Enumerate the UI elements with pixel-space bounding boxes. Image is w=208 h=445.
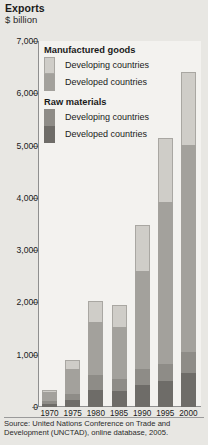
bar-1995 bbox=[158, 138, 173, 407]
legend-group-title-manufactured: Manufactured goods bbox=[44, 44, 176, 56]
legend-swatch-icon bbox=[44, 126, 55, 143]
y-axis-label: 6,000 bbox=[4, 89, 38, 97]
bar-segment bbox=[158, 202, 173, 364]
legend-label: Developing countries bbox=[65, 60, 149, 71]
bar-segment bbox=[65, 360, 80, 369]
y-axis-label: 4,000 bbox=[4, 194, 38, 202]
bar-segment bbox=[158, 138, 173, 202]
bar-segment bbox=[135, 271, 150, 369]
y-axis-label: 1,000 bbox=[4, 351, 38, 359]
bar-segment bbox=[181, 72, 196, 145]
bar-1990 bbox=[135, 225, 150, 407]
bar-1985 bbox=[112, 305, 127, 407]
legend-item-raw-developing: Developing countries bbox=[44, 109, 176, 126]
bar-segment bbox=[158, 364, 173, 381]
legend-swatch-icon bbox=[44, 109, 55, 126]
legend-item-raw-developed: Developed countries bbox=[44, 126, 176, 143]
bar-segment bbox=[181, 145, 196, 352]
bar-segment bbox=[88, 390, 103, 407]
bar-segment bbox=[65, 369, 80, 394]
legend-swatch-icon bbox=[44, 74, 55, 91]
source-divider bbox=[4, 417, 204, 418]
legend-swatch-icon bbox=[44, 57, 55, 74]
chart-root: Exports $ billion 7,0006,0005,0004,0003,… bbox=[0, 0, 208, 445]
bar-segment bbox=[42, 392, 57, 401]
source-note: Source: United Nations Conference on Tra… bbox=[4, 419, 206, 437]
bar-segment bbox=[158, 381, 173, 407]
bar-segment bbox=[88, 301, 103, 322]
legend-item-manufactured-developing: Developing countries bbox=[44, 57, 176, 74]
bar-segment bbox=[112, 327, 127, 379]
legend-label: Developed countries bbox=[65, 77, 147, 88]
y-axis-label: 3,000 bbox=[4, 246, 38, 254]
bar-1970 bbox=[42, 390, 57, 407]
y-axis-label: 7,000 bbox=[4, 37, 38, 45]
bar-segment bbox=[88, 322, 103, 374]
legend-label: Developed countries bbox=[65, 129, 147, 140]
bar-segment bbox=[135, 369, 150, 385]
y-axis-label: 5,000 bbox=[4, 142, 38, 150]
legend-group-title-raw-materials: Raw materials bbox=[44, 96, 176, 108]
bar-2000 bbox=[181, 72, 196, 407]
bar-segment bbox=[112, 379, 127, 392]
bar-segment bbox=[135, 385, 150, 407]
bar-segment bbox=[135, 225, 150, 270]
chart-unit-label: $ billion bbox=[5, 14, 45, 26]
bar-segment bbox=[65, 400, 80, 407]
y-axis-label: 2,000 bbox=[4, 298, 38, 306]
chart-legend: Manufactured goods Developing countries … bbox=[44, 44, 176, 143]
chart-header: Exports $ billion bbox=[5, 2, 45, 26]
bar-segment bbox=[88, 375, 103, 390]
y-axis-label: 0 bbox=[4, 403, 38, 411]
page-title: Exports bbox=[5, 2, 45, 14]
bar-1975 bbox=[65, 360, 80, 407]
legend-label: Developing countries bbox=[65, 112, 149, 123]
bar-segment bbox=[112, 305, 127, 327]
bar-segment bbox=[181, 373, 196, 408]
legend-item-manufactured-developed: Developed countries bbox=[44, 74, 176, 91]
bar-1980 bbox=[88, 301, 103, 407]
bar-segment bbox=[181, 352, 196, 373]
bar-segment bbox=[42, 404, 57, 407]
bar-segment bbox=[112, 391, 127, 407]
